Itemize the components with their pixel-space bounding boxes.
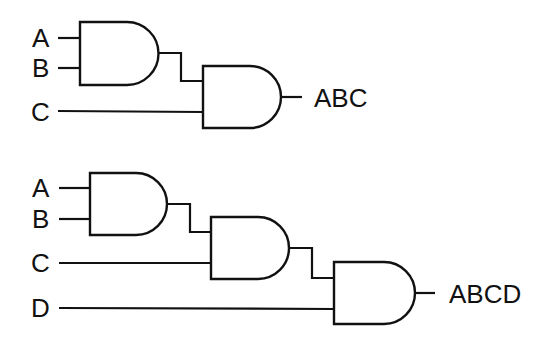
input-label-a: A xyxy=(32,23,50,53)
input-label-b: B xyxy=(32,53,49,83)
and-gate-4 xyxy=(211,217,289,279)
and-gate-1 xyxy=(80,22,159,85)
input-label-b: B xyxy=(32,204,49,234)
output-label-abc: ABC xyxy=(314,83,367,113)
wire-c xyxy=(58,111,203,112)
wire-d xyxy=(59,308,334,309)
and-gate-5 xyxy=(334,262,415,324)
and-gate-3 xyxy=(90,173,167,235)
output-label-abcd: ABCD xyxy=(449,279,521,309)
wire-g1-g2 xyxy=(158,53,203,81)
input-label-c: C xyxy=(31,97,50,127)
input-label-d: D xyxy=(31,293,50,323)
input-label-a: A xyxy=(32,173,50,203)
wire-g4-g5 xyxy=(289,248,334,278)
logic-diagram: A B C ABC A B C D ABCD xyxy=(0,0,549,340)
circuit-abcd: A B C D ABCD xyxy=(31,173,521,324)
wire-g3-g4 xyxy=(167,204,211,232)
circuit-abc: A B C ABC xyxy=(31,22,367,128)
input-label-c: C xyxy=(31,248,50,278)
and-gate-2 xyxy=(203,66,281,128)
